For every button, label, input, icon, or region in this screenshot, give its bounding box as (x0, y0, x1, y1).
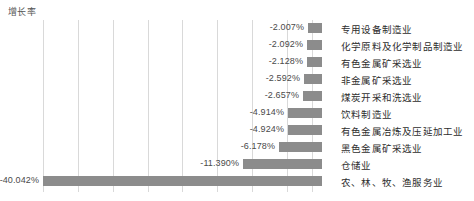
bar[interactable] (307, 40, 322, 50)
bar[interactable] (43, 176, 322, 186)
bar-value-label: -2.128% (233, 56, 303, 66)
bar-value-label: -2.657% (229, 90, 299, 100)
bar-row[interactable]: -2.657%煤炭开采和洗选业 (0, 88, 474, 105)
bar-row[interactable]: -4.924%有色金属冶炼及压延加工业 (0, 122, 474, 139)
bar-row[interactable]: -2.128%有色金属矿采选业 (0, 54, 474, 71)
category-label: 饮料制造业 (341, 107, 392, 121)
bar[interactable] (288, 125, 322, 135)
bar[interactable] (308, 23, 322, 33)
category-label: 化学原料及化学制品制造业 (341, 39, 463, 53)
category-label: 非金属矿采选业 (341, 73, 412, 87)
category-label: 煤炭开采和洗选业 (341, 90, 423, 104)
category-label: 黑色金属矿采选业 (341, 141, 423, 155)
bar-row[interactable]: -11.390%仓储业 (0, 156, 474, 173)
category-label: 专用设备制造业 (341, 22, 412, 36)
bar-row[interactable]: -2.592%非金属矿采选业 (0, 71, 474, 88)
bar-value-label: -40.042% (0, 175, 39, 185)
bar[interactable] (288, 108, 322, 118)
bar-value-label: -6.178% (205, 141, 275, 151)
plot-area: -2.007%专用设备制造业-2.092%化学原料及化学制品制造业-2.128%… (0, 20, 474, 192)
bar[interactable] (307, 57, 322, 67)
growth-rate-bar-chart: 增长率 -2.007%专用设备制造业-2.092%化学原料及化学制品制造业-2.… (0, 0, 474, 201)
bar-value-label: -2.007% (234, 22, 304, 32)
bar-row[interactable]: -2.092%化学原料及化学制品制造业 (0, 37, 474, 54)
bar-value-label: -2.592% (230, 73, 300, 83)
bar-row[interactable]: -4.914%饮料制造业 (0, 105, 474, 122)
category-label: 农、林、牧、渔服务业 (341, 175, 443, 189)
bar-row[interactable]: -6.178%黑色金属矿采选业 (0, 139, 474, 156)
bar-value-label: -4.914% (214, 107, 284, 117)
bar-value-label: -4.924% (214, 124, 284, 134)
bar[interactable] (243, 159, 322, 169)
category-label: 有色金属冶炼及压延加工业 (341, 124, 463, 138)
category-label: 仓储业 (341, 158, 372, 172)
bar[interactable] (279, 142, 322, 152)
chart-title: 增长率 (8, 5, 36, 18)
bar-value-label: -11.390% (169, 158, 239, 168)
bar-row[interactable]: -40.042%农、林、牧、渔服务业 (0, 173, 474, 190)
bar[interactable] (303, 91, 322, 101)
category-label: 有色金属矿采选业 (341, 56, 423, 70)
bar[interactable] (304, 74, 322, 84)
bar-rows: -2.007%专用设备制造业-2.092%化学原料及化学制品制造业-2.128%… (0, 20, 474, 192)
bar-row[interactable]: -2.007%专用设备制造业 (0, 20, 474, 37)
bar-value-label: -2.092% (233, 39, 303, 49)
